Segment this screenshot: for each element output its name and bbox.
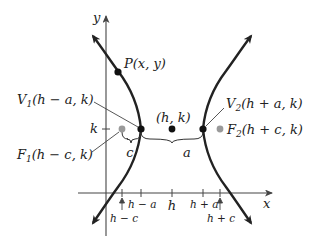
v1-leader xyxy=(94,102,138,127)
x-axis-label: x xyxy=(263,196,271,211)
brace-c-label: c xyxy=(126,145,134,160)
point-p xyxy=(114,68,121,75)
brace-a-label: a xyxy=(183,145,191,160)
center-label: (h, k) xyxy=(156,110,191,125)
tick-label-h-plus-c: h + c xyxy=(207,212,235,224)
k-label: k xyxy=(90,121,98,136)
tick-label-h-minus-c: h − c xyxy=(110,212,138,224)
tick-label-h-plus-a: h + a xyxy=(190,198,219,210)
v2-label: V2(h + a, k) xyxy=(226,96,303,113)
vertex-v2 xyxy=(199,125,206,132)
y-axis-label: y xyxy=(92,10,101,25)
f1-label: F1(h − c, k) xyxy=(16,147,93,164)
focus-f2 xyxy=(217,126,224,133)
brace-a xyxy=(141,132,203,143)
center-point xyxy=(169,126,176,133)
p-label: P(x, y) xyxy=(123,56,166,71)
hyperbola-diagram: y x k P(x, y) (h, k) V1(h − a, k) F1(h −… xyxy=(0,0,318,238)
v1-label: V1(h − a, k) xyxy=(17,92,94,109)
v2-leader xyxy=(206,108,224,126)
vertex-v1 xyxy=(137,125,144,132)
focus-f1 xyxy=(119,126,126,133)
tick-label-h-minus-a: h − a xyxy=(128,198,157,210)
tick-label-h: h xyxy=(168,198,176,213)
f2-label: F2(h + c, k) xyxy=(226,122,303,139)
right-branch-upper xyxy=(203,36,251,129)
